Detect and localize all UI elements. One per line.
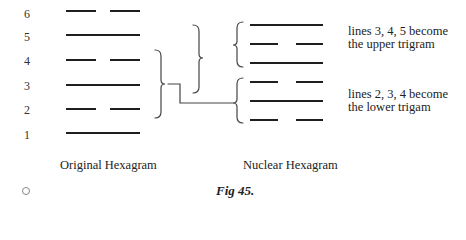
lower-note-line-2: the lower trigam bbox=[348, 101, 448, 114]
nuclear-hexagram-label: Nuclear Hexagram bbox=[243, 158, 338, 173]
figure-caption: Fig 45. bbox=[216, 183, 254, 199]
brace-lower-trigram bbox=[233, 78, 243, 123]
page-marker-circle-icon bbox=[22, 187, 30, 195]
upper-trigram-note: lines 3, 4, 5 become the upper trigram bbox=[348, 25, 448, 51]
connector-line bbox=[168, 84, 233, 103]
lower-trigram-note: lines 2, 3, 4 become the lower trigam bbox=[348, 88, 448, 114]
brace-upper-trigram bbox=[233, 22, 243, 67]
brace-lines-2-4 bbox=[155, 50, 165, 118]
original-hexagram-label: Original Hexagram bbox=[60, 158, 157, 173]
brace-lines-3-5 bbox=[193, 25, 203, 93]
upper-note-line-2: the upper trigram bbox=[348, 38, 448, 51]
